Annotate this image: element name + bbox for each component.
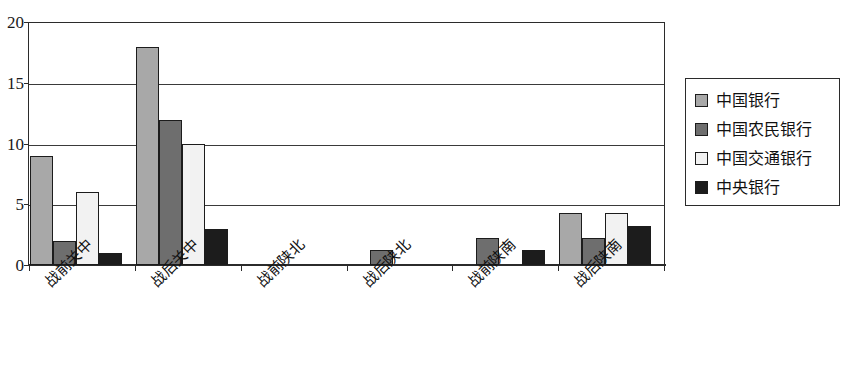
bar-group [452, 23, 559, 265]
legend-swatch-icon [695, 152, 708, 165]
legend-item: 中国银行 [695, 86, 839, 115]
legend-swatch-icon [695, 123, 708, 136]
bar-group [241, 23, 348, 265]
legend-item: 中国农民银行 [695, 115, 839, 144]
bar [628, 226, 651, 265]
bar [522, 250, 545, 265]
legend-label: 中国交通银行 [716, 151, 812, 167]
legend-swatch-icon [695, 181, 708, 194]
y-tick-label: 5 [0, 196, 24, 213]
legend-label: 中国农民银行 [716, 122, 812, 138]
bar-groups [29, 23, 664, 265]
bar [99, 253, 122, 265]
y-tick-label: 20 [0, 14, 24, 31]
x-tick-mark [135, 265, 136, 271]
x-tick-mark [29, 265, 30, 271]
legend: 中国银行中国农民银行中国交通银行中央银行 [685, 78, 840, 206]
x-tick-mark [558, 265, 559, 271]
bar-group [135, 23, 242, 265]
legend-item: 中央银行 [695, 173, 839, 202]
bar-group [558, 23, 665, 265]
legend-label: 中央银行 [716, 180, 780, 196]
x-tick-mark [347, 265, 348, 271]
y-tick-label: 15 [0, 74, 24, 91]
bar-group [29, 23, 136, 265]
y-tick-label: 10 [0, 135, 24, 152]
x-tick-mark [664, 265, 665, 271]
legend-swatch-icon [695, 94, 708, 107]
bar [30, 156, 53, 265]
bar [136, 47, 159, 265]
legend-item: 中国交通银行 [695, 144, 839, 173]
bar-group [347, 23, 454, 265]
legend-label: 中国银行 [716, 93, 780, 109]
y-axis: 05101520 [0, 0, 24, 375]
y-tick-label: 0 [0, 257, 24, 274]
bar [559, 213, 582, 265]
bar-chart: 05101520 战前关中战后关中战前陕北战后陕北战前陕南战后陕南 中国银行中国… [0, 0, 853, 375]
bar [205, 229, 228, 265]
x-tick-mark [452, 265, 453, 271]
x-tick-mark [241, 265, 242, 271]
